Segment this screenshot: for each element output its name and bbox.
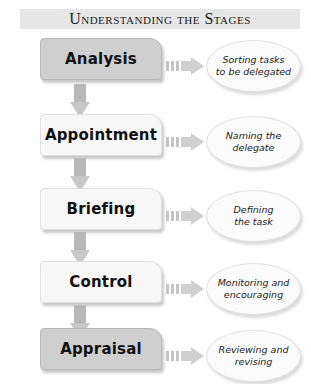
stage-box-briefing: Briefing	[40, 188, 162, 230]
description-text: Monitoring and encouraging	[218, 277, 290, 301]
description-bubble-analysis: Sorting tasks to be delegated	[206, 40, 301, 92]
stage-box-appointment: Appointment	[40, 114, 162, 156]
stage-label: Analysis	[65, 50, 137, 68]
stage-label: Briefing	[67, 200, 136, 218]
stage-label: Appointment	[45, 126, 157, 144]
right-arrow-icon	[166, 280, 204, 298]
stage-box-control: Control	[40, 261, 162, 303]
description-bubble-briefing: Defining the task	[206, 190, 301, 242]
description-bubble-control: Monitoring and encouraging	[206, 263, 301, 315]
right-arrow-icon	[166, 207, 204, 225]
description-text: Naming the delegate	[226, 130, 281, 154]
right-arrow-icon	[166, 57, 204, 75]
stage-label: Appraisal	[60, 340, 142, 358]
down-arrow-icon	[70, 158, 90, 192]
stage-box-appraisal: Appraisal	[40, 328, 162, 370]
stage-box-analysis: Analysis	[40, 38, 162, 80]
down-arrow-icon	[70, 84, 90, 118]
title-bar: Understanding the Stages	[20, 9, 300, 29]
description-text: Defining the task	[233, 204, 273, 228]
description-text: Reviewing and revising	[219, 344, 289, 368]
description-bubble-appointment: Naming the delegate	[206, 116, 301, 168]
diagram-title: Understanding the Stages	[69, 10, 251, 28]
stage-label: Control	[69, 273, 132, 291]
description-text: Sorting tasks to be delegated	[216, 54, 291, 78]
description-bubble-appraisal: Reviewing and revising	[206, 330, 301, 382]
right-arrow-icon	[166, 347, 204, 365]
right-arrow-icon	[166, 133, 204, 151]
